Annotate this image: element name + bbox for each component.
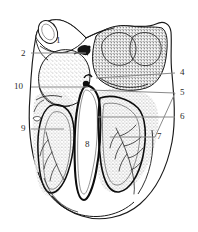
label-1: 1 (56, 36, 61, 45)
label-9: 9 (21, 124, 26, 133)
label-10: 10 (14, 82, 23, 91)
label-2: 2 (21, 49, 26, 58)
label-6: 6 (180, 112, 185, 121)
label-4: 4 (180, 68, 185, 77)
label-8: 8 (85, 140, 90, 149)
label-5: 5 (180, 88, 185, 97)
septal-orifice (83, 81, 89, 87)
label-7: 7 (157, 132, 162, 141)
figure-canvas: 1 2 4 5 6 7 8 9 10 (0, 0, 198, 232)
heart-section-illustration (0, 0, 198, 232)
